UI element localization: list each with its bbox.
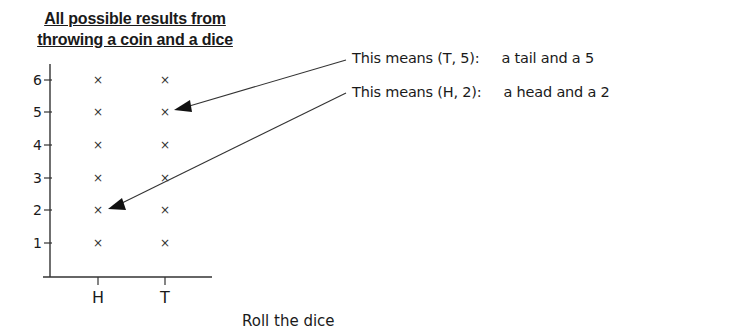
point-t-5: ×	[158, 106, 172, 118]
x-tick-label-t: T	[155, 288, 175, 307]
x-axis-caption: Roll the dice	[242, 312, 335, 330]
point-h-3: ×	[91, 172, 105, 184]
y-tick-label-6: 6	[22, 73, 42, 87]
point-h-1: ×	[91, 237, 105, 249]
annotation-t5: This means (T, 5):a tail and a 5	[352, 50, 594, 66]
x-ticks	[98, 277, 165, 285]
arrow-to-h2	[108, 93, 346, 210]
point-t-3: ×	[158, 172, 172, 184]
y-tick-label-4: 4	[22, 138, 42, 152]
annotation-h2-label: This means (H, 2):	[352, 84, 481, 100]
point-h-6: ×	[91, 74, 105, 86]
point-t-6: ×	[158, 74, 172, 86]
annotation-h2: This means (H, 2):a head and a 2	[352, 84, 610, 100]
y-tick-label-3: 3	[22, 171, 42, 185]
y-tick-label-5: 5	[22, 105, 42, 119]
y-tick-label-1: 1	[22, 236, 42, 250]
point-t-4: ×	[158, 139, 172, 151]
point-h-4: ×	[91, 139, 105, 151]
annotation-t5-meaning: a tail and a 5	[501, 50, 594, 66]
y-tick-label-2: 2	[22, 203, 42, 217]
annotation-h2-meaning: a head and a 2	[503, 84, 609, 100]
annotation-t5-label: This means (T, 5):	[352, 50, 479, 66]
x-tick-label-h: H	[88, 288, 108, 307]
point-t-1: ×	[158, 237, 172, 249]
point-h-2: ×	[91, 204, 105, 216]
y-ticks	[44, 80, 52, 243]
point-h-5: ×	[91, 106, 105, 118]
arrow-to-t5	[174, 60, 346, 112]
point-t-2: ×	[158, 204, 172, 216]
